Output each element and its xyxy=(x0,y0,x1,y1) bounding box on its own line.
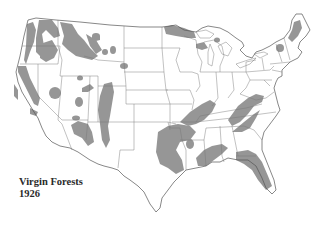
great-lakes xyxy=(196,30,268,68)
map-title: Virgin Forests xyxy=(19,176,83,188)
map-year: 1926 xyxy=(19,188,83,200)
map-caption: Virgin Forests 1926 xyxy=(19,176,83,200)
